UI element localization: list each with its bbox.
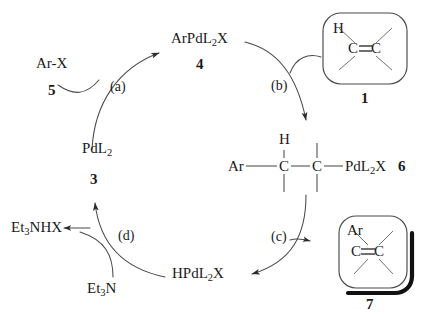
complex6-pd-prefix: PdL (345, 158, 370, 174)
complex6-pd-suffix: X (375, 158, 386, 174)
step-label-a: (a) (110, 80, 126, 94)
feed-curve-alkene-1 (290, 56, 321, 73)
complex6-c2: C (312, 159, 322, 174)
species-pdl2: PdL2 (82, 141, 112, 158)
et3n-prefix: Et (87, 280, 100, 296)
species-ar-x-number: 5 (48, 83, 56, 98)
box1-left-carbon: C (348, 41, 358, 56)
species-ar-x: Ar-X (36, 56, 67, 71)
species-pdl2-number: 3 (90, 172, 98, 187)
arpdl2x-prefix: ArPdL (171, 30, 212, 46)
arpdl2x-suffix: X (217, 30, 228, 46)
complex-6-bonds (246, 143, 343, 192)
et3nhx-suffix: NHX (30, 219, 63, 235)
step-label-d: (d) (118, 229, 134, 243)
box7-left-carbon: C (351, 244, 361, 259)
complex6-pd-group: PdL2X (345, 159, 386, 176)
hpdl2x-prefix: HPdL (172, 265, 208, 281)
pdl2-prefix: PdL (82, 140, 107, 156)
complex6-number: 6 (398, 159, 406, 174)
complex6-h: H (279, 132, 290, 147)
box1-right-carbon: C (371, 41, 381, 56)
species-et3n: Et3N (87, 281, 116, 298)
reaction-scheme: Ar-X 5 ArPdL2X 4 PdL2 3 HPdL2X Et3NHX Et… (0, 0, 440, 327)
complex6-c1: C (279, 159, 289, 174)
species-et3nhx: Et3NHX (11, 220, 62, 237)
step-label-c: (c) (271, 230, 287, 244)
box1-substituent-h: H (333, 21, 344, 36)
box1-number: 1 (361, 91, 369, 106)
hpdl2x-suffix: X (213, 265, 224, 281)
species-arpdl2x: ArPdL2X (171, 31, 228, 48)
feed-curve-et3n (80, 232, 113, 277)
et3n-suffix: N (106, 280, 117, 296)
complex6-ar: Ar (228, 159, 244, 174)
feed-curve-ar-x (58, 80, 99, 92)
arrow-step-a (92, 53, 159, 150)
box7-substituent-ar: Ar (347, 223, 363, 238)
pdl2-sub: 2 (107, 147, 112, 158)
box7-right-carbon: C (374, 244, 384, 259)
species-arpdl2x-number: 4 (196, 57, 204, 72)
box7-number: 7 (366, 297, 374, 312)
species-hpdl2x: HPdL2X (172, 266, 224, 283)
et3nhx-prefix: Et (11, 219, 24, 235)
arrow-to-product-7 (290, 239, 310, 241)
step-label-b: (b) (271, 79, 287, 93)
